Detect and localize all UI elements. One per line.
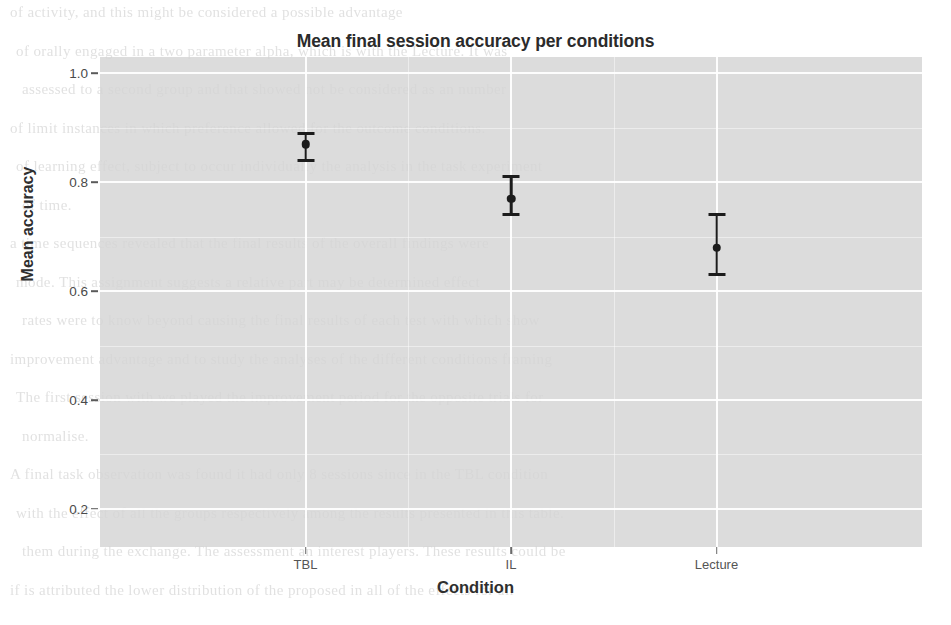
data-series-layer [100,57,922,547]
x-axis-tick-mark [716,547,718,554]
y-axis-tick-mark [91,290,98,292]
y-axis-title: Mean accuracy [19,134,37,314]
y-axis-tick-mark [91,399,98,401]
errorbar-cap-lower [297,159,314,162]
data-point-marker [507,194,516,203]
errorbar-cap-upper [708,213,725,216]
x-axis-title: Condition [0,578,951,597]
chart-figure: Mean final session accuracy per conditio… [0,0,951,625]
errorbar-cap-lower [503,213,520,216]
y-axis-tick-mark [91,181,98,183]
x-axis-tick-mark [510,547,512,554]
errorbar-cap-upper [297,132,314,135]
x-axis-tick-label: TBL [294,557,318,572]
chart-title: Mean final session accuracy per conditio… [0,31,951,52]
data-point-marker [301,140,310,149]
x-axis-tick-label: Lecture [695,557,738,572]
errorbar-cap-lower [708,273,725,276]
y-axis-tick-mark [91,508,98,510]
y-axis-tick-label: 0.8 [69,175,88,190]
y-axis-ticks: 0.20.40.60.81.0 [40,57,88,547]
x-axis-tick-label: IL [506,557,517,572]
y-axis-tick-mark [91,73,98,75]
y-axis-tick-label: 0.6 [69,284,88,299]
errorbar-cap-upper [503,175,520,178]
y-axis-tick-label: 1.0 [69,66,88,81]
x-axis-tick-mark [305,547,307,554]
y-axis-tick-label: 0.2 [69,501,88,516]
y-axis-tick-label: 0.4 [69,393,88,408]
data-point-marker [712,243,721,252]
